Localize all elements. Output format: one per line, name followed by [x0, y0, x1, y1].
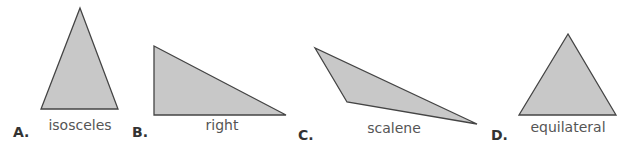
option-letter-a: A. [13, 124, 29, 140]
option-letter-c: C. [298, 127, 314, 143]
option-letter-d: D. [491, 127, 508, 143]
scalene-triangle [315, 48, 477, 124]
label-equilateral: equilateral [530, 119, 605, 135]
triangle-types-diagram: A. isosceles B. right C. scalene D. equi… [0, 0, 632, 151]
right-triangle [154, 46, 286, 115]
label-right: right [206, 117, 239, 133]
isosceles-triangle [41, 8, 118, 109]
equilateral-triangle [519, 34, 616, 115]
option-letter-b: B. [132, 124, 148, 140]
label-isosceles: isosceles [48, 117, 111, 133]
label-scalene: scalene [367, 120, 421, 136]
